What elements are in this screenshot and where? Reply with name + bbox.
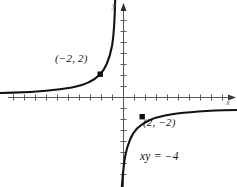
curve-branch-lower-right [122,110,237,187]
hyperbola-graph-figure: (−2, 2) (2, −2) xy = −4 y x [0,0,237,187]
x-axis [8,95,236,101]
point-marker-upper [98,72,103,77]
y-axis-label: y [112,1,116,10]
y-axis-arrow-icon [121,3,127,11]
plot-canvas [0,0,237,187]
point-label-upper: (−2, 2) [55,53,88,64]
point-label-lower: (2, −2) [143,117,176,128]
x-axis-label: x [226,98,230,107]
curve-branch-upper-left [0,0,115,93]
equation-label: xy = −4 [140,151,179,163]
